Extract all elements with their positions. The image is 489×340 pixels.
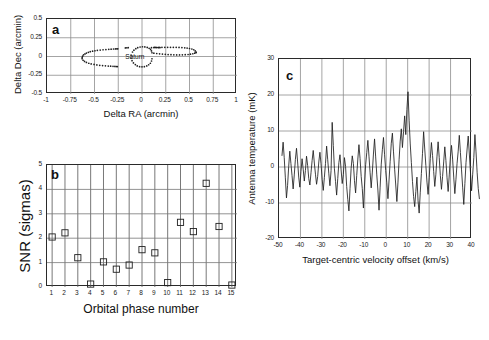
panel-c-ytick-1: 20 xyxy=(242,90,274,97)
panel-b-ytick-3: 3 xyxy=(10,209,42,216)
panel-b-y-axis-label: SNR (sigmas) xyxy=(16,162,33,290)
panel-a-ytick-1: 0.25 xyxy=(10,33,42,40)
panel-c-x-axis-label: Target-centric velocity offset (km/s) xyxy=(268,254,483,265)
panel-b-ytick-4: 4 xyxy=(10,184,42,191)
panel-c-letter: c xyxy=(286,68,293,83)
panel-a-ytick-2: 0 xyxy=(10,52,42,59)
panel-c-ytick-2: 10 xyxy=(242,126,274,133)
series-west-ring-ansa xyxy=(81,48,118,67)
panel-a: a Saturn Delta RA (arcmin) Delta Dec (ar… xyxy=(0,4,255,144)
panel-b-ytick-1: 1 xyxy=(10,258,42,265)
panel-b-ytick-5: 5 xyxy=(10,160,42,167)
panel-b-ytick-0: 0 xyxy=(10,282,42,289)
panel-b-data-layer xyxy=(47,165,237,287)
panel-c-ytick-0: 30 xyxy=(242,54,274,61)
panel-c-data-layer xyxy=(279,59,472,239)
panel-a-ytick-0: 0.5 xyxy=(10,14,42,21)
panel-a-ytick-4: -0.5 xyxy=(10,89,42,96)
panel-c-spectrum-trace xyxy=(282,92,479,213)
panel-c-ytick-3: 0 xyxy=(242,162,274,169)
panel-c-plot-area xyxy=(278,58,471,238)
panel-b-letter: b xyxy=(51,167,59,182)
panel-c-ytick-4: -10 xyxy=(242,198,274,205)
panel-b: b Orbital phase number SNR (sigmas) 1234… xyxy=(0,150,255,340)
panel-a-ytick-3: -0.25 xyxy=(10,70,42,77)
panel-a-saturn-annotation: Saturn xyxy=(125,53,144,60)
panel-c: c Target-centric velocity offset (km/s) … xyxy=(236,48,489,298)
panel-b-plot-area xyxy=(46,164,236,286)
panel-b-x-axis-label: Orbital phase number xyxy=(36,302,246,316)
panel-a-x-axis-label: Delta RA (arcmin) xyxy=(46,108,236,119)
panel-c-y-axis-label: Antenna temperature (mK) xyxy=(246,57,257,240)
panel-a-letter: a xyxy=(52,22,59,37)
figure-canvas: a Saturn Delta RA (arcmin) Delta Dec (ar… xyxy=(0,0,489,340)
panel-c-ytick-5: -20 xyxy=(242,234,274,241)
panel-c-xtick-9: 40 xyxy=(457,241,485,248)
panel-b-ytick-2: 2 xyxy=(10,233,42,240)
